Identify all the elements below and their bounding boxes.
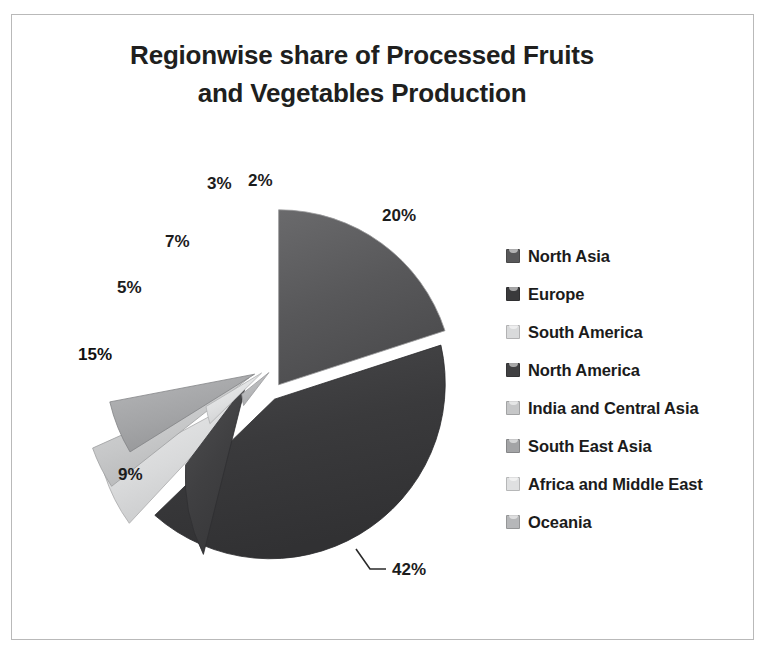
slice-label-oceania: 2% xyxy=(248,171,273,190)
legend-swatch-icon xyxy=(506,249,520,263)
pie-chart-svg: 20% 42% 9% 15% 5% 7% 3% 2% xyxy=(26,145,496,635)
slice-label-north-america: 15% xyxy=(78,345,112,364)
slice-label-india-and-central-asia: 5% xyxy=(117,278,142,297)
legend-item-south-america[interactable]: South America xyxy=(506,313,764,351)
slice-label-north-asia: 20% xyxy=(382,206,416,225)
chart-legend: North Asia Europe South America North Am… xyxy=(506,237,764,541)
legend-item-label: Europe xyxy=(528,285,584,304)
legend-item-label: Africa and Middle East xyxy=(528,475,703,494)
legend-item-north-asia[interactable]: North Asia xyxy=(506,237,764,275)
page-title-line-2: and Vegetables Production xyxy=(52,75,672,113)
page-title-line-1: Regionwise share of Processed Fruits xyxy=(52,37,672,75)
chart-frame: Regionwise share of Processed Fruits and… xyxy=(11,14,754,640)
legend-swatch-icon xyxy=(506,515,520,529)
legend-item-south-east-asia[interactable]: South East Asia xyxy=(506,427,764,465)
legend-item-label: India and Central Asia xyxy=(528,399,698,418)
legend-swatch-icon xyxy=(506,401,520,415)
legend-item-north-america[interactable]: North America xyxy=(506,351,764,389)
legend-item-india-and-central-asia[interactable]: India and Central Asia xyxy=(506,389,764,427)
pie-chart-plot-area: 20% 42% 9% 15% 5% 7% 3% 2% xyxy=(26,145,496,635)
legend-item-label: Oceania xyxy=(528,513,592,532)
leader-line-europe xyxy=(356,549,386,569)
page-title: Regionwise share of Processed Fruits and… xyxy=(52,37,672,112)
legend-item-label: South America xyxy=(528,323,643,342)
slice-label-africa-and-middle-east: 3% xyxy=(207,174,232,193)
legend-swatch-icon xyxy=(506,439,520,453)
legend-swatch-icon xyxy=(506,287,520,301)
slice-label-south-america: 9% xyxy=(118,465,143,484)
legend-item-label: South East Asia xyxy=(528,437,652,456)
slice-label-south-east-asia: 7% xyxy=(165,232,190,251)
legend-item-label: North Asia xyxy=(528,247,610,266)
legend-item-label: North America xyxy=(528,361,640,380)
legend-swatch-icon xyxy=(506,325,520,339)
chart-page: Regionwise share of Processed Fruits and… xyxy=(0,0,764,656)
legend-swatch-icon xyxy=(506,477,520,491)
legend-item-africa-and-middle-east[interactable]: Africa and Middle East xyxy=(506,465,764,503)
legend-item-oceania[interactable]: Oceania xyxy=(506,503,764,541)
legend-swatch-icon xyxy=(506,363,520,377)
legend-item-europe[interactable]: Europe xyxy=(506,275,764,313)
slice-label-europe: 42% xyxy=(392,560,426,579)
